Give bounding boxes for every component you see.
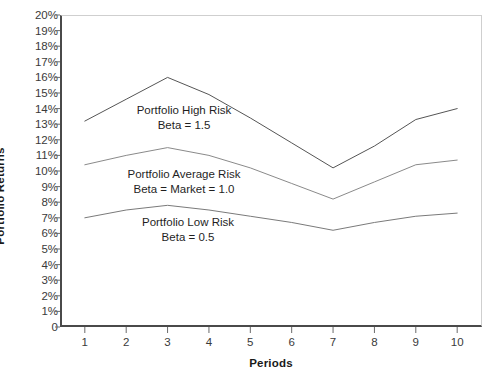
series-annotation: Portfolio Low RiskBeta = 0.5: [142, 215, 234, 245]
x-axis-ticks: [85, 327, 457, 333]
annotation-beta-value: Beta = 1.5: [137, 118, 232, 133]
y-axis-tick-label: 12%: [14, 133, 58, 146]
y-axis-tick-label: 3%: [14, 274, 58, 287]
y-axis-tick-label: 7%: [14, 211, 58, 224]
y-axis-tick-label: 1%: [14, 305, 58, 318]
plot-area: [60, 15, 482, 327]
y-axis-tick-label: 11%: [14, 149, 58, 162]
x-axis-tick-label: 3: [164, 336, 170, 348]
y-axis-tick-label: 18%: [14, 40, 58, 53]
y-axis-tick-label: 10%: [14, 165, 58, 178]
portfolio-returns-chart: Portfolio Returns 20%19%18%17%16%15%14%1…: [0, 0, 496, 392]
annotation-beta-value: Beta = 0.5: [142, 230, 234, 245]
x-axis-tick-label: 10: [451, 336, 464, 348]
annotation-series-name: Portfolio Low Risk: [142, 216, 234, 228]
x-axis-tick-label: 7: [330, 336, 336, 348]
x-axis-tick-label: 8: [371, 336, 377, 348]
y-axis-tick-label: 4%: [14, 258, 58, 271]
x-axis-tick-label: 6: [288, 336, 294, 348]
annotation-beta-value: Beta = Market = 1.0: [128, 182, 241, 197]
series-annotation: Portfolio High RiskBeta = 1.5: [137, 103, 232, 133]
y-axis-tick-labels: 20%19%18%17%16%15%14%13%12%11%10%9%8%7%6…: [14, 8, 58, 336]
annotation-series-name: Portfolio Average Risk: [128, 168, 241, 180]
y-axis-tick-label: 16%: [14, 71, 58, 84]
y-axis-tick-label: 17%: [14, 55, 58, 68]
y-axis-tick-label: 2%: [14, 289, 58, 302]
x-axis-tick-labels: 12345678910: [60, 336, 482, 354]
y-axis-tick-label: 8%: [14, 196, 58, 209]
x-axis-title: Periods: [60, 357, 482, 369]
x-axis-tick-label: 5: [247, 336, 253, 348]
x-axis-tick-label: 4: [206, 336, 212, 348]
x-axis-tick-label: 2: [123, 336, 129, 348]
y-axis-tick-label: 5%: [14, 243, 58, 256]
y-axis-tick-label: 14%: [14, 102, 58, 115]
y-axis-tick-label: 19%: [14, 24, 58, 37]
y-axis-tick-label: 6%: [14, 227, 58, 240]
y-axis-tick-label: 15%: [14, 87, 58, 100]
y-axis-tick-label: 20%: [14, 9, 58, 22]
x-axis-tick-label: 1: [82, 336, 88, 348]
series-annotation: Portfolio Average RiskBeta = Market = 1.…: [128, 167, 241, 197]
annotation-series-name: Portfolio High Risk: [137, 104, 232, 116]
y-axis-tick-label: 13%: [14, 118, 58, 131]
x-axis-tick-label: 9: [413, 336, 419, 348]
y-axis-tick-label: 9%: [14, 180, 58, 193]
y-axis-tick-label: 0: [14, 321, 58, 334]
